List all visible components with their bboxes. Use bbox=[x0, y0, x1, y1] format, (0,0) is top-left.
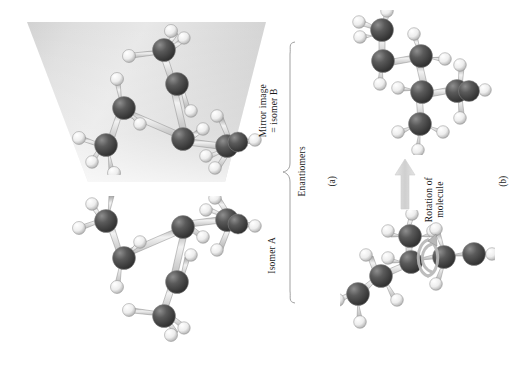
label-rotation-line2: molecule bbox=[435, 163, 446, 237]
label-rotation-line1: Rotation of bbox=[424, 163, 435, 237]
label-mirror-image-line1: Mirror image bbox=[258, 56, 269, 166]
label-enantiomers: Enantiomers bbox=[297, 123, 308, 219]
molecule-isomer-rotated-result bbox=[340, 10, 495, 155]
enantiomers-figure: Mirror image = isomer B Isomer A Enantio… bbox=[0, 0, 526, 376]
panel-label-a: (a) bbox=[327, 170, 338, 192]
rotation-direction-arrow bbox=[394, 158, 418, 210]
molecule-isomer-before-rotation bbox=[340, 210, 495, 342]
molecule-isomer-b-mirror-image bbox=[60, 20, 265, 175]
molecule-isomer-a bbox=[60, 196, 265, 346]
label-rotation-of-molecule: Rotation of molecule bbox=[424, 163, 445, 237]
panel-label-b: (b) bbox=[498, 170, 509, 192]
label-mirror-image-line2: = isomer B bbox=[269, 56, 280, 166]
label-mirror-image-isomer-b: Mirror image = isomer B bbox=[258, 56, 279, 166]
label-isomer-a: Isomer A bbox=[267, 213, 278, 297]
